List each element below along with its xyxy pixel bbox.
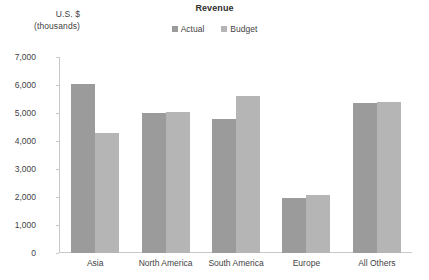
y-axis-tick-label: 5,000 [0, 109, 36, 118]
y-axis-tick [56, 57, 59, 58]
y-axis-tick [56, 141, 59, 142]
y-axis-tick-label: 0 [0, 249, 36, 258]
chart-title: Revenue [0, 3, 429, 13]
bar-budget[interactable] [306, 195, 330, 253]
y-axis-tick [56, 253, 59, 254]
y-axis-tick-label: 1,000 [0, 221, 36, 230]
y-axis-tick [56, 85, 59, 86]
y-axis-tick-label: 4,000 [0, 137, 36, 146]
y-axis-tick [56, 225, 59, 226]
bar-actual[interactable] [71, 84, 95, 253]
bar-group [130, 57, 200, 253]
y-axis-tick-label: 2,000 [0, 193, 36, 202]
bar-budget[interactable] [236, 96, 260, 253]
legend-label: Actual [181, 24, 205, 34]
revenue-bar-chart: U.S. $ (thousands) Revenue ActualBudget … [0, 0, 429, 280]
bar-group [271, 57, 341, 253]
bar-actual[interactable] [353, 103, 377, 253]
x-axis-category-label: Asia [60, 258, 130, 268]
legend-swatch-icon [172, 26, 178, 32]
bar-groups [60, 57, 412, 253]
x-axis-category-label: South America [201, 258, 271, 268]
bar-budget[interactable] [377, 102, 401, 253]
bar-group [342, 57, 412, 253]
legend-item[interactable]: Budget [221, 24, 257, 34]
y-axis-tick-label: 7,000 [0, 53, 36, 62]
legend-item[interactable]: Actual [172, 24, 205, 34]
legend-swatch-icon [221, 26, 227, 32]
x-axis-category-label: Europe [271, 258, 341, 268]
y-axis-tick-label: 3,000 [0, 165, 36, 174]
bar-actual[interactable] [282, 198, 306, 253]
y-axis-tick [56, 169, 59, 170]
legend-label: Budget [230, 24, 257, 34]
bar-group [201, 57, 271, 253]
x-axis-category-label: All Others [342, 258, 412, 268]
bar-budget[interactable] [95, 133, 119, 253]
x-axis-category-label: North America [130, 258, 200, 268]
bar-actual[interactable] [142, 113, 166, 253]
y-axis-tick-label: 6,000 [0, 81, 36, 90]
x-axis-category-labels: AsiaNorth AmericaSouth AmericaEuropeAll … [60, 258, 412, 268]
bar-budget[interactable] [166, 112, 190, 253]
bar-group [60, 57, 130, 253]
plot-area: 01,0002,0003,0004,0005,0006,0007,000 [59, 57, 412, 253]
bar-actual[interactable] [212, 119, 236, 253]
y-axis-tick [56, 113, 59, 114]
y-axis-tick [56, 197, 59, 198]
chart-legend: ActualBudget [0, 24, 429, 34]
